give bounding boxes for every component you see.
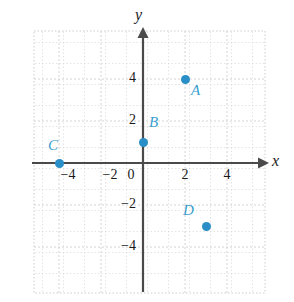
x-tick-label-neg2: −2 [100, 167, 120, 183]
point-A-label: A [191, 82, 200, 99]
point-D-marker [202, 222, 211, 231]
point-B-marker [139, 138, 148, 147]
x-axis-label: x [272, 152, 279, 170]
x-tick-label-neg4: −4 [58, 167, 78, 183]
point-C-marker [55, 159, 64, 168]
coordinate-plane-figure: y x −4 −2 0 2 4 4 2 −2 −4 A B C D [0, 0, 294, 302]
point-D-label: D [183, 202, 194, 219]
point-C-label: C [48, 137, 58, 154]
y-tick-label-neg2: −2 [112, 196, 136, 212]
x-tick-label-4: 4 [220, 167, 234, 183]
point-B-label: B [149, 114, 158, 131]
y-tick-label-neg4: −4 [112, 238, 136, 254]
y-tick-label-4: 4 [120, 70, 136, 86]
y-axis-label: y [135, 6, 142, 24]
grid-and-axes [0, 0, 294, 302]
x-tick-label-2: 2 [178, 167, 192, 183]
x-tick-label-0: 0 [124, 167, 138, 183]
y-tick-label-2: 2 [120, 112, 136, 128]
point-A-marker [181, 75, 190, 84]
